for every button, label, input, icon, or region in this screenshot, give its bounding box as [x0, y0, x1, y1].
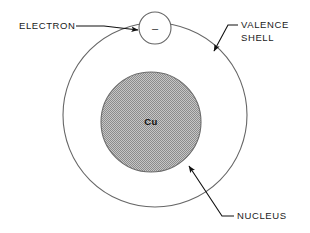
nucleus-leader-line — [189, 166, 234, 216]
electron-charge-icon: – — [152, 22, 159, 34]
atom-diagram: Cu – ELECTRON VALENCE SHELL NUCLEUS — [0, 0, 310, 233]
diagram-canvas: Cu – ELECTRON VALENCE SHELL NUCLEUS — [0, 0, 310, 233]
nucleus-label: NUCLEUS — [237, 210, 287, 221]
electron-label: ELECTRON — [19, 20, 76, 31]
valence-shell-label-line2: SHELL — [241, 32, 274, 43]
valence-shell-label-line1: VALENCE — [241, 19, 289, 30]
element-symbol-label: Cu — [144, 116, 157, 127]
